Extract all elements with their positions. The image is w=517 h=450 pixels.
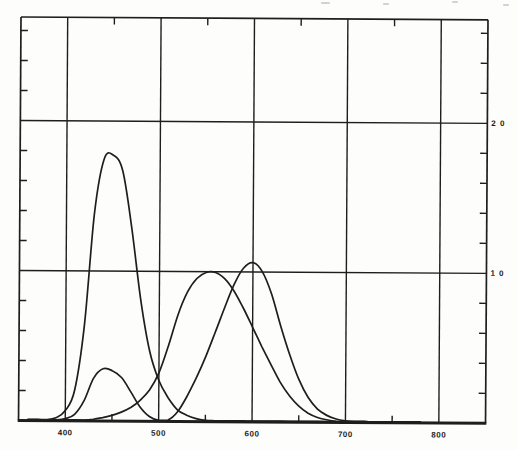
x-tick-label: 800 <box>431 431 446 440</box>
x-tick-label: 400 <box>58 428 73 437</box>
chart-canvas <box>0 0 517 450</box>
scanned-chart-page: 400 500 600 700 800 1 0 2 0 <box>0 0 517 450</box>
curve-xbar <box>28 261 421 422</box>
y-tick-label: 2 0 <box>491 119 505 128</box>
y-tick-label: 1 0 <box>490 269 504 278</box>
x-tick-label: 600 <box>245 429 260 438</box>
x-tick-label: 700 <box>338 430 353 439</box>
cie-color-matching-chart: 400 500 600 700 800 1 0 2 0 <box>0 0 517 450</box>
vertical-gridlines <box>65 17 441 423</box>
x-tick-label: 500 <box>151 429 166 438</box>
curve-zbar <box>28 152 422 422</box>
